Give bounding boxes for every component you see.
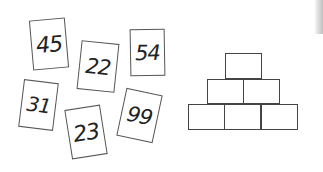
number-card: 22 — [77, 40, 120, 93]
card-number: 45 — [35, 30, 63, 57]
pyramid-box-row2-1[interactable] — [207, 79, 244, 104]
number-card: 99 — [116, 88, 162, 144]
card-number: 54 — [135, 40, 160, 64]
card-number: 23 — [71, 118, 101, 147]
number-card: 54 — [130, 29, 166, 77]
card-number: 22 — [84, 53, 111, 79]
card-number: 99 — [125, 101, 154, 130]
number-card: 45 — [29, 18, 69, 71]
pyramid-box-row2-2[interactable] — [243, 79, 280, 104]
pyramid-box-row3-2[interactable] — [224, 104, 261, 130]
pyramid-box-row1-1[interactable] — [225, 53, 262, 79]
number-card: 31 — [18, 79, 59, 131]
card-number: 31 — [25, 92, 51, 119]
scan-smudge — [315, 0, 323, 34]
number-card: 23 — [64, 104, 107, 159]
pyramid-box-row3-3[interactable] — [261, 104, 298, 130]
pyramid-box-row3-1[interactable] — [188, 104, 225, 130]
